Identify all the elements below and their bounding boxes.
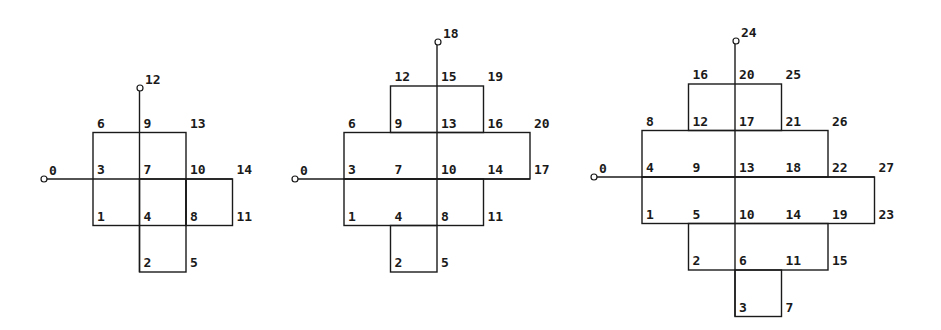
endpoint-dot-icon <box>733 38 739 44</box>
vertex-label: 8 <box>190 209 198 224</box>
vertex-label: 9 <box>144 116 152 131</box>
vertex-label: 16 <box>488 116 504 131</box>
vertex-label: 1 <box>348 209 356 224</box>
vertex-label: 9 <box>395 116 403 131</box>
vertex-label: 4 <box>144 209 152 224</box>
vertex-label: 14 <box>786 207 802 222</box>
vertex-label: 15 <box>832 253 848 268</box>
lattice-figure: 0126913371014148112501812151969131620371… <box>0 0 941 330</box>
vertex-label: 11 <box>786 253 802 268</box>
vertex-label: 7 <box>395 162 403 177</box>
vertex-label: 23 <box>879 207 895 222</box>
vertex-label: 12 <box>395 69 411 84</box>
endpoint-dot-icon <box>292 176 298 182</box>
endpoint-label: 12 <box>145 72 161 87</box>
vertex-label: 11 <box>488 209 504 224</box>
vertex-label: 2 <box>693 253 701 268</box>
vertex-label: 10 <box>441 162 457 177</box>
endpoint-dot-icon <box>137 85 143 91</box>
vertex-label: 6 <box>97 116 105 131</box>
endpoint-label: 0 <box>49 163 57 178</box>
vertex-label: 5 <box>693 207 701 222</box>
vertex-label: 10 <box>190 162 206 177</box>
vertex-label: 16 <box>693 67 709 82</box>
vertex-label: 5 <box>441 255 449 270</box>
endpoint-label: 18 <box>443 26 459 41</box>
vertex-label: 22 <box>832 160 848 175</box>
endpoint-dot-icon <box>591 174 597 180</box>
vertex-label: 17 <box>739 114 755 129</box>
vertex-label: 18 <box>786 160 802 175</box>
endpoint-dot-icon <box>41 176 47 182</box>
grid-block <box>689 224 829 271</box>
diagram-medium: 01812151969131620371014171481125 <box>292 26 550 272</box>
vertex-label: 3 <box>97 162 105 177</box>
vertex-label: 3 <box>348 162 356 177</box>
vertex-label: 9 <box>693 160 701 175</box>
vertex-label: 1 <box>646 207 654 222</box>
vertex-label: 12 <box>693 114 709 129</box>
vertex-label: 13 <box>441 116 457 131</box>
vertex-label: 11 <box>237 209 253 224</box>
vertex-label: 19 <box>832 207 848 222</box>
vertex-label: 3 <box>739 300 747 315</box>
vertex-label: 20 <box>534 116 550 131</box>
vertex-label: 14 <box>488 162 504 177</box>
vertex-label: 8 <box>441 209 449 224</box>
vertex-label: 27 <box>879 160 895 175</box>
diagram-large: 0241620258121721264913182227151014192326… <box>591 25 894 317</box>
endpoint-label: 24 <box>741 25 757 40</box>
vertex-label: 7 <box>786 300 794 315</box>
diagram-canvas: 0126913371014148112501812151969131620371… <box>0 0 941 330</box>
vertex-label: 25 <box>786 67 802 82</box>
vertex-label: 26 <box>832 114 848 129</box>
grid-block <box>344 179 484 226</box>
vertex-label: 13 <box>190 116 206 131</box>
diagram-small: 01269133710141481125 <box>41 72 252 272</box>
vertex-label: 1 <box>97 209 105 224</box>
vertex-label: 19 <box>488 69 504 84</box>
vertex-label: 2 <box>144 255 152 270</box>
vertex-label: 6 <box>348 116 356 131</box>
vertex-label: 14 <box>237 162 253 177</box>
vertex-label: 20 <box>739 67 755 82</box>
vertex-label: 15 <box>441 69 457 84</box>
vertex-label: 17 <box>534 162 550 177</box>
endpoint-dot-icon <box>435 39 441 45</box>
vertex-label: 21 <box>786 114 802 129</box>
vertex-label: 8 <box>646 114 654 129</box>
vertex-label: 7 <box>144 162 152 177</box>
vertex-label: 4 <box>646 160 654 175</box>
vertex-label: 13 <box>739 160 755 175</box>
vertex-label: 4 <box>395 209 403 224</box>
vertex-label: 6 <box>739 253 747 268</box>
vertex-label: 5 <box>190 255 198 270</box>
endpoint-label: 0 <box>300 163 308 178</box>
vertex-label: 2 <box>395 255 403 270</box>
endpoint-label: 0 <box>599 161 607 176</box>
vertex-label: 10 <box>739 207 755 222</box>
